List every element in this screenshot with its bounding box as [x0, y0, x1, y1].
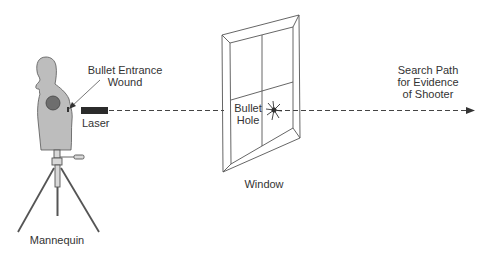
- entrance-wound-pointer: [69, 80, 100, 109]
- mannequin: [18, 57, 99, 232]
- window-frame-icon: [222, 15, 300, 172]
- laser-icon: [81, 107, 108, 114]
- bullet-hole-label-line1: Bullet: [234, 102, 262, 114]
- tripod-icon: [18, 150, 99, 232]
- bullet-hole-icon: [266, 101, 282, 120]
- laser-label: Laser: [82, 117, 110, 129]
- entrance-wound-label-line1: Bullet Entrance: [88, 64, 163, 76]
- bullet-hole-label-line2: Hole: [237, 114, 260, 126]
- window-label: Window: [244, 178, 283, 190]
- search-path-label-line1: Search Path: [398, 64, 459, 76]
- target-circle-icon: [46, 96, 60, 110]
- entrance-wound-mark: [67, 107, 69, 112]
- search-path-label-line2: for Evidence: [397, 76, 458, 88]
- search-path-label-line3: of Shooter: [403, 88, 454, 100]
- trajectory-diagram: Bullet Entrance Wound Laser Bullet Hole …: [0, 0, 491, 256]
- entrance-wound-label-line2: Wound: [108, 76, 143, 88]
- dashed-arrow-right-icon: [109, 107, 475, 114]
- mannequin-label: Mannequin: [30, 234, 84, 246]
